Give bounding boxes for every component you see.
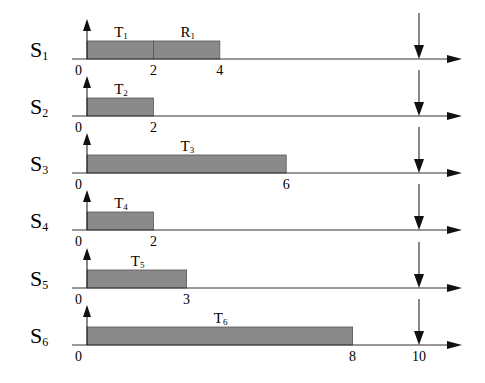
task-label: R1	[181, 24, 196, 41]
tick-label: 0	[75, 234, 82, 249]
task-label: T3	[181, 138, 195, 155]
task-bar	[87, 270, 187, 288]
tick-label: 2	[150, 234, 157, 249]
deadline-arrow-icon	[414, 331, 424, 345]
row-s1: S1T1R1024	[30, 13, 462, 78]
deadline-arrow-icon	[414, 45, 424, 59]
tick-label: 3	[183, 292, 190, 307]
row-s2: S2T202	[30, 70, 462, 135]
row-label: S6	[30, 323, 48, 349]
deadline-arrow-icon	[414, 159, 424, 173]
axis-arrow-icon	[447, 341, 462, 349]
tick-label: 2	[150, 63, 157, 78]
deadline-arrow-icon	[414, 102, 424, 116]
tick-label: 10	[412, 349, 426, 364]
row-label: S4	[30, 208, 48, 234]
tick-label: 6	[283, 177, 290, 192]
task-bar	[87, 98, 153, 116]
row-label: S2	[30, 94, 48, 120]
task-label: T1	[114, 24, 128, 41]
row-s6: S6T60810	[30, 299, 462, 364]
axis-arrow-icon	[447, 226, 462, 234]
deadline-arrow-icon	[414, 216, 424, 230]
row-label: S5	[30, 266, 48, 292]
tick-label: 4	[216, 63, 223, 78]
tick-label: 8	[349, 349, 356, 364]
task-bar	[153, 41, 219, 59]
release-arrow-icon	[83, 19, 91, 31]
task-label: T6	[214, 310, 228, 327]
axis-arrow-icon	[447, 55, 462, 63]
task-bar	[87, 212, 153, 230]
tick-label: 0	[75, 63, 82, 78]
axis-arrow-icon	[447, 112, 462, 120]
task-label: T5	[131, 253, 145, 270]
tick-label: 0	[75, 120, 82, 135]
deadline-arrow-icon	[414, 274, 424, 288]
axis-arrow-icon	[447, 169, 462, 177]
axis-arrow-icon	[447, 284, 462, 292]
task-bar	[87, 41, 153, 59]
release-arrow-icon	[83, 76, 91, 88]
task-label: T2	[114, 81, 128, 98]
tick-label: 0	[75, 349, 82, 364]
row-s4: S4T402	[30, 184, 462, 249]
release-arrow-icon	[83, 305, 91, 317]
tick-label: 0	[75, 177, 82, 192]
row-label: S3	[30, 151, 48, 177]
tick-label: 0	[75, 292, 82, 307]
release-arrow-icon	[83, 248, 91, 260]
task-bar	[87, 155, 286, 173]
row-s5: S5T503	[30, 242, 462, 307]
timing-diagram: S1T1R1024S2T202S3T306S4T402S5T503S6T6081…	[0, 0, 485, 383]
tick-label: 2	[150, 120, 157, 135]
task-label: T4	[114, 195, 128, 212]
release-arrow-icon	[83, 190, 91, 202]
release-arrow-icon	[83, 133, 91, 145]
task-bar	[87, 327, 353, 345]
row-s3: S3T306	[30, 127, 462, 192]
row-label: S1	[30, 37, 48, 63]
